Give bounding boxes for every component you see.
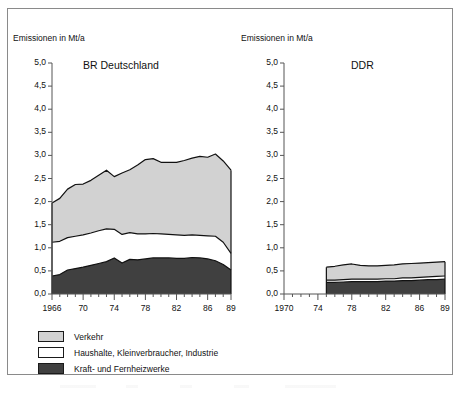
legend-swatch-haushalte xyxy=(38,347,64,358)
y-tick-label: 3,5 xyxy=(250,126,278,136)
legend-label-verkehr: Verkehr xyxy=(74,332,103,342)
legend-item-verkehr: Verkehr xyxy=(38,331,103,342)
x-tick-label: 70 xyxy=(67,303,99,313)
x-tick-label: 1970 xyxy=(268,303,300,313)
x-tick-label: 1966 xyxy=(36,303,68,313)
legend-item-kraftwerke: Kraft- und Fernheizwerke xyxy=(38,363,169,374)
y-tick-label: 3,5 xyxy=(18,126,46,136)
x-tick-label: 78 xyxy=(129,303,161,313)
y-tick-label: 0,0 xyxy=(250,288,278,298)
legend-swatch-kraftwerke xyxy=(38,363,64,374)
y-tick-label: 0,5 xyxy=(250,265,278,275)
figure-frame: Emissionen in Mt/a BR Deutschland 0,00,5… xyxy=(7,8,453,375)
y-tick-label: 2,0 xyxy=(250,196,278,206)
y-tick-label: 3,0 xyxy=(18,149,46,159)
x-tick-label: 78 xyxy=(336,303,368,313)
x-tick-label: 82 xyxy=(161,303,193,313)
y-tick-label: 0,0 xyxy=(18,288,46,298)
legend-swatch-verkehr xyxy=(38,331,64,342)
x-tick-label: 82 xyxy=(370,303,402,313)
y-tick-label: 0,5 xyxy=(18,265,46,275)
legend-item-haushalte: Haushalte, Kleinverbraucher, Industrie xyxy=(38,347,218,358)
legend-label-haushalte: Haushalte, Kleinverbraucher, Industrie xyxy=(74,348,218,358)
legend: Verkehr Haushalte, Kleinverbraucher, Ind… xyxy=(8,331,454,376)
y-tick-label: 1,5 xyxy=(250,219,278,229)
y-tick-label: 1,5 xyxy=(18,219,46,229)
right-axis-title: Emissionen in Mt/a xyxy=(241,33,313,43)
legend-label-kraftwerke: Kraft- und Fernheizwerke xyxy=(74,364,169,374)
y-tick-label: 1,0 xyxy=(250,242,278,252)
y-tick-label: 3,0 xyxy=(250,149,278,159)
y-tick-label: 2,5 xyxy=(250,173,278,183)
x-tick-label: 89 xyxy=(429,303,461,313)
scan-artifact xyxy=(60,385,360,388)
y-tick-label: 4,0 xyxy=(250,103,278,113)
y-tick-label: 2,0 xyxy=(18,196,46,206)
y-tick-label: 4,0 xyxy=(18,103,46,113)
y-tick-label: 4,5 xyxy=(250,80,278,90)
y-tick-label: 5,0 xyxy=(250,57,278,67)
y-tick-label: 2,5 xyxy=(18,173,46,183)
left-axis-title: Emissionen in Mt/a xyxy=(13,33,85,43)
x-tick-label: 74 xyxy=(302,303,334,313)
y-tick-label: 1,0 xyxy=(18,242,46,252)
x-tick-label: 74 xyxy=(98,303,130,313)
y-tick-label: 4,5 xyxy=(18,80,46,90)
y-tick-label: 5,0 xyxy=(18,57,46,67)
